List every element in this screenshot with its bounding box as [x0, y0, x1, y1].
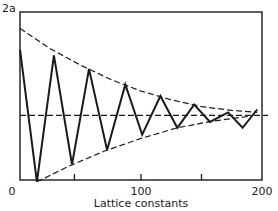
x-axis-title: Lattice constants [94, 197, 188, 210]
plot-frame [20, 12, 262, 180]
x-tick-label-0: 0 [9, 185, 16, 198]
x-axis-ticks [74, 174, 201, 180]
series-group [20, 28, 268, 181]
y-axis-top-label: 2a [2, 2, 16, 15]
chart-canvas [0, 0, 278, 211]
x-tick-label-200: 200 [252, 185, 273, 198]
